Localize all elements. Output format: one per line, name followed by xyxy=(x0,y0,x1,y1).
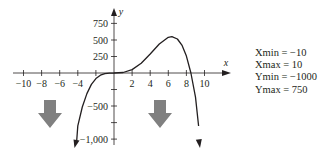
y-tick-label: 250 xyxy=(93,51,108,62)
x-tick-label: 10 xyxy=(200,78,210,89)
x-tick-label: −10 xyxy=(16,78,32,89)
curve-left-arrow-icon xyxy=(74,140,80,149)
ymax-setting: Ymax = 750 xyxy=(255,84,317,96)
x-tick-label: 8 xyxy=(184,78,189,89)
y-axis: 750 500 250 −500 −1,000 y xyxy=(80,6,124,145)
x-tick-label: −6 xyxy=(54,78,65,89)
down-arrow-right-icon xyxy=(148,100,172,128)
y-tick-label: 500 xyxy=(93,35,108,46)
down-arrow-left-icon xyxy=(38,100,62,128)
x-tick-label: −8 xyxy=(36,78,47,89)
x-tick-label: 2 xyxy=(130,78,135,89)
curve-right-arrow-icon xyxy=(196,139,202,148)
y-tick-label: −500 xyxy=(87,101,108,112)
x-tick-label: 4 xyxy=(148,78,153,89)
x-axis-label: x xyxy=(223,57,229,68)
y-tick-label: −1,000 xyxy=(80,134,108,145)
function-graph: −10 −8 −6 −4 2 4 6 8 10 x 750 500 250 −5… xyxy=(0,0,240,155)
xmin-setting: Xmin = −10 xyxy=(255,47,317,59)
x-tick-label: 6 xyxy=(166,78,171,89)
viewing-window-settings: Xmin = −10 Xmax = 10 Ymin = −1000 Ymax =… xyxy=(255,47,317,96)
x-tick-label: −4 xyxy=(72,78,83,89)
y-tick-label: 750 xyxy=(93,18,108,29)
ymin-setting: Ymin = −1000 xyxy=(255,71,317,83)
x-axis-arrow-icon xyxy=(222,70,231,76)
y-axis-label: y xyxy=(118,6,124,17)
xmax-setting: Xmax = 10 xyxy=(255,59,317,71)
y-axis-arrow-icon xyxy=(111,8,117,16)
